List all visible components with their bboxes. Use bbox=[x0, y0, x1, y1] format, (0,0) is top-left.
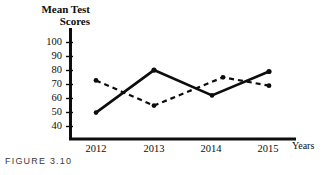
solid-series-point bbox=[210, 93, 215, 98]
y-tick-label-70: 70 bbox=[36, 78, 62, 89]
dashed-series-point bbox=[267, 83, 272, 88]
x-tick-label-2013: 2013 bbox=[134, 143, 174, 154]
y-tick-label-80: 80 bbox=[36, 64, 62, 75]
solid-series-point bbox=[94, 110, 99, 115]
solid-series-group bbox=[94, 68, 272, 115]
x-tick-label-2015: 2015 bbox=[248, 143, 288, 154]
dashed-series-point bbox=[152, 103, 157, 108]
figure-container: Mean TestScores 1 bbox=[0, 0, 330, 175]
y-tick-label-60: 60 bbox=[36, 92, 62, 103]
dashed-series-point bbox=[221, 75, 226, 80]
figure-caption: FIGURE 3.10 bbox=[5, 156, 72, 166]
solid-series-point bbox=[151, 68, 156, 73]
axes-group bbox=[69, 28, 296, 140]
x-tick-label-2012: 2012 bbox=[76, 143, 116, 154]
dashed-series-group bbox=[94, 75, 272, 108]
y-tick-label-40: 40 bbox=[36, 120, 62, 131]
y-tick-label-100: 100 bbox=[36, 36, 62, 47]
dashed-series-point bbox=[94, 78, 99, 83]
y-tick-label-90: 90 bbox=[36, 50, 62, 61]
solid-series-point bbox=[266, 69, 271, 74]
x-axis-title: Years bbox=[292, 140, 314, 152]
x-tick-label-2014: 2014 bbox=[191, 143, 231, 154]
y-tick-label-50: 50 bbox=[36, 106, 62, 117]
